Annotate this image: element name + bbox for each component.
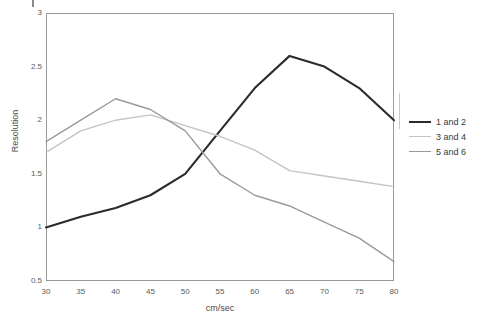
legend-item-label: 1 and 2 <box>436 117 466 127</box>
x-axis-tick-label: 45 <box>135 288 165 296</box>
x-axis-tick-labels: 3035404550556065707580 <box>0 288 485 300</box>
legend-divider <box>399 93 400 129</box>
y-axis-tick-label: 3 <box>2 9 42 17</box>
legend-item[interactable]: 5 and 6 <box>409 144 479 159</box>
x-axis-tick-label: 40 <box>101 288 131 296</box>
y-axis-title: Resolution <box>10 96 20 166</box>
y-axis-tick-label: 1.5 <box>2 170 42 178</box>
legend-item[interactable]: 1 and 2 <box>409 114 479 129</box>
legend-line-swatch <box>409 136 431 137</box>
series-line <box>46 99 394 262</box>
y-axis-tick-label: 2 <box>2 116 42 124</box>
series-line <box>46 115 394 187</box>
y-axis-tick-label: 0.5 <box>2 277 42 285</box>
line-chart: 0.511.522.53 3035404550556065707580 cm/s… <box>0 0 485 324</box>
x-axis-tick-label: 75 <box>344 288 374 296</box>
x-axis-tick-label: 70 <box>309 288 339 296</box>
y-axis-tick-label: 1 <box>2 223 42 231</box>
x-axis-tick-label: 55 <box>205 288 235 296</box>
legend-item-label: 5 and 6 <box>436 147 466 157</box>
x-axis-tick-label: 50 <box>170 288 200 296</box>
legend-line-swatch <box>409 121 431 123</box>
y-axis-tick-labels: 0.511.522.53 <box>0 0 42 324</box>
y-axis-tick-label: 2.5 <box>2 63 42 71</box>
x-axis-tick-label: 65 <box>275 288 305 296</box>
chart-legend: 1 and 2 3 and 4 5 and 6 <box>406 111 481 163</box>
legend-line-swatch <box>409 151 431 152</box>
x-axis-tick-label: 60 <box>240 288 270 296</box>
legend-item[interactable]: 3 and 4 <box>409 129 479 144</box>
x-axis-tick-label: 35 <box>66 288 96 296</box>
x-axis-tick-label: 80 <box>379 288 409 296</box>
plot-series-canvas <box>46 13 394 281</box>
x-axis-tick-label: 30 <box>31 288 61 296</box>
legend-item-label: 3 and 4 <box>436 132 466 142</box>
x-axis-title: cm/sec <box>46 303 394 313</box>
series-line <box>46 56 394 228</box>
